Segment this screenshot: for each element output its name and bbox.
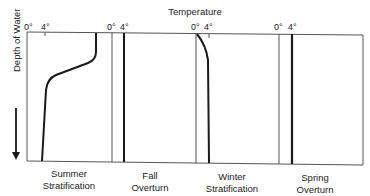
lake-temperature-diagram — [0, 0, 370, 196]
diagram-frame — [27, 32, 363, 165]
summer-temperature-profile — [42, 33, 96, 161]
depth-arrow-icon — [12, 152, 20, 160]
summer-caption: Summer Stratification — [24, 168, 114, 192]
winter-caption: Winter Stratification — [187, 171, 277, 195]
spring-caption: Spring Overturn — [270, 172, 360, 196]
fall-caption: Fall Overturn — [105, 170, 195, 194]
winter-temperature-profile — [197, 34, 209, 163]
